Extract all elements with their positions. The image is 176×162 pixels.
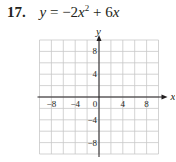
y-tick-label: −4: [87, 115, 97, 125]
x-tick-label: 8: [144, 99, 149, 109]
y-tick-label: 8: [93, 46, 98, 56]
y-axis-label: y: [95, 25, 101, 37]
y-tick-label: −8: [87, 138, 97, 148]
x-axis-arrow-icon: [162, 95, 168, 100]
x-tick-label: 4: [121, 99, 126, 109]
x-tick-label: −8: [47, 99, 57, 109]
x-tick-label: −4: [70, 99, 80, 109]
y-tick-label: 4: [93, 69, 98, 79]
axes: [38, 35, 168, 157]
coordinate-grid: xy−8−404884−4−8: [0, 0, 175, 162]
x-axis-label: x: [170, 90, 176, 102]
x-tick-label: 0: [93, 99, 98, 109]
